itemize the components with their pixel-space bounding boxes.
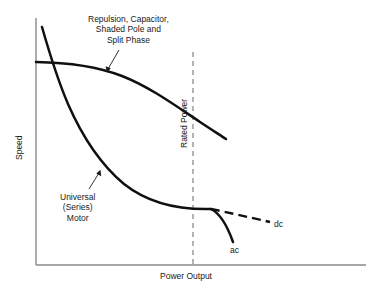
annotation-rated-power: Rated Power — [179, 99, 189, 148]
annotation-upper-curve: Repulsion, Capacitor, Shaded Pole and Sp… — [88, 14, 169, 45]
series-label-dc: dc — [274, 219, 283, 229]
series-label-ac: ac — [230, 245, 239, 255]
x-axis-label: Power Output — [160, 271, 212, 281]
leader-line-upper-curve — [108, 50, 119, 69]
annotation-lower-curve: Universal (Series) Motor — [60, 192, 95, 223]
chart-plot-area — [0, 0, 380, 294]
leader-arrowhead-lower-curve — [96, 170, 101, 176]
motor-speed-power-chart: Repulsion, Capacitor, Shaded Pole and Sp… — [0, 0, 380, 294]
y-axis-label: Speed — [14, 135, 24, 160]
curve-repulsion-capacitor-shadedpole-splitphase — [36, 62, 226, 139]
leader-line-lower-curve — [89, 173, 99, 189]
